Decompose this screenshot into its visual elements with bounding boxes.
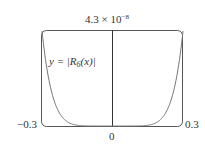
x-min-label: −0.3 — [17, 118, 37, 130]
curve-label: y = |R6(x)| — [49, 55, 96, 71]
x-max-label: 0.3 — [185, 118, 199, 130]
x-zero-label: 0 — [109, 130, 115, 142]
y-max-label: 4.3 × 10−8 — [85, 13, 129, 25]
